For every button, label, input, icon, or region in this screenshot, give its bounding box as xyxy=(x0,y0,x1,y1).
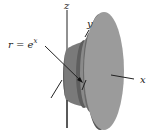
diagram-canvas xyxy=(0,0,162,140)
curve-equation-lhs: r = e xyxy=(8,39,33,50)
y-axis-lower xyxy=(51,80,62,98)
curve-equation-exponent: x xyxy=(33,37,37,45)
disk-face xyxy=(84,12,124,130)
curve-equation-label: r = ex xyxy=(8,38,37,50)
y-axis-label: y xyxy=(87,19,93,29)
z-axis-label: z xyxy=(64,1,69,11)
x-axis-label: x xyxy=(140,75,146,85)
solid-of-revolution-diagram: z y x r = ex xyxy=(0,0,162,140)
